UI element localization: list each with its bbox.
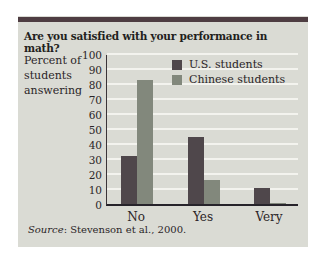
y-tick-10: 10 [62, 184, 102, 196]
bar-no-chinese [137, 80, 153, 205]
source-note: Source: Stevenson et al., 2000. [28, 224, 186, 235]
legend-item-chinese-students: Chinese students [172, 72, 285, 87]
plot-area: U.S. studentsChinese students [106, 55, 298, 206]
y-tick-70: 70 [62, 94, 102, 106]
category-label-no: No [106, 210, 166, 224]
figure-page: Are you satisfied with your performance … [0, 0, 324, 262]
gridline-70 [107, 98, 298, 100]
bar-very-us [254, 188, 270, 205]
gridline-60 [107, 113, 298, 115]
y-tick-40: 40 [62, 139, 102, 151]
y-tick-80: 80 [62, 79, 102, 91]
legend-label: U.S. students [189, 58, 263, 71]
bar-no-us [121, 156, 137, 204]
gridline-100 [107, 53, 298, 55]
chart-card: Are you satisfied with your performance … [18, 16, 308, 247]
bar-yes-us [188, 137, 204, 205]
legend-label: Chinese students [189, 73, 285, 86]
y-tick-90: 90 [62, 64, 102, 76]
y-tick-100: 100 [62, 49, 102, 61]
legend-item-us-students: U.S. students [172, 57, 285, 72]
bar-very-chinese [270, 203, 286, 205]
gridline-50 [107, 128, 298, 130]
legend-swatch-icon [172, 60, 182, 70]
category-label-very: Very [239, 210, 299, 224]
y-tick-0: 0 [62, 199, 102, 211]
source-text: : Stevenson et al., 2000. [64, 224, 187, 235]
legend: U.S. studentsChinese students [172, 57, 285, 87]
y-tick-30: 30 [62, 154, 102, 166]
category-label-yes: Yes [173, 210, 233, 224]
y-tick-50: 50 [62, 124, 102, 136]
top-rule-decoration [18, 17, 308, 22]
y-tick-20: 20 [62, 169, 102, 181]
source-label: Source [28, 224, 64, 235]
legend-swatch-icon [172, 75, 182, 85]
bar-yes-chinese [204, 180, 220, 204]
y-tick-60: 60 [62, 109, 102, 121]
